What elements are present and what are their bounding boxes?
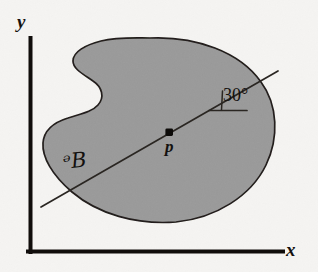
y-axis-label: y [17, 12, 25, 31]
angle-label: 30° [223, 86, 248, 104]
point-label: p [165, 138, 174, 155]
point-marker [165, 128, 173, 136]
point-marker-group [165, 128, 173, 136]
figure-canvas [0, 0, 318, 272]
region-label: ᵊB [62, 150, 88, 173]
x-axis-label: x [286, 240, 296, 259]
geometry-figure: y x ᵊB p 30° [0, 0, 318, 272]
